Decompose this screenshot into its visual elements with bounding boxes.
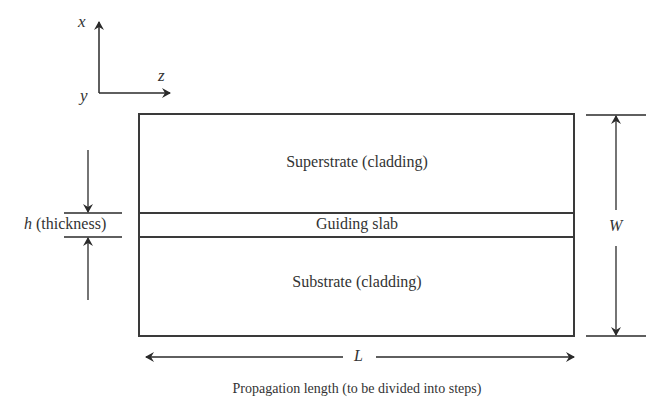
thickness-label: h (thickness) — [24, 215, 106, 233]
x-axis-label: x — [78, 12, 86, 32]
y-axis-label: y — [80, 86, 88, 106]
propagation-length-caption: Propagation length (to be divided into s… — [233, 381, 482, 397]
width-symbol: W — [609, 217, 622, 235]
thickness-text: (thickness) — [36, 215, 106, 232]
substrate-label: Substrate (cladding) — [292, 273, 421, 291]
superstrate-label: Superstrate (cladding) — [286, 153, 428, 171]
guiding-slab-label: Guiding slab — [316, 215, 398, 233]
length-symbol: L — [354, 347, 363, 365]
z-axis-label: z — [158, 66, 165, 86]
thickness-symbol: h — [24, 215, 32, 232]
